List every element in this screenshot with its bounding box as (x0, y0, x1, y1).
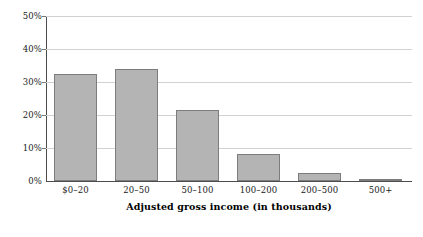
y-tick-mark (42, 49, 46, 50)
bar-3 (237, 154, 280, 181)
y-tick-mark (42, 148, 46, 149)
bar-1 (115, 69, 158, 181)
gridline-50 (46, 16, 412, 17)
x-axis-tick-label: 20–50 (115, 185, 158, 196)
y-axis-tick-label: 30% (2, 78, 42, 87)
bar-0 (54, 74, 97, 181)
y-tick-mark (42, 82, 46, 83)
gridline-10 (46, 148, 412, 149)
x-axis-tick-label: $0–20 (54, 185, 97, 196)
x-axis-tick-labels: $0–20 20–50 50–100 100–200 200–500 500+ (46, 185, 412, 199)
y-axis-tick-label: 50% (2, 12, 42, 21)
x-axis-tick-label: 200–500 (298, 185, 341, 196)
x-axis-tick-label: 100–200 (237, 185, 280, 196)
y-axis-tick-label: 40% (2, 45, 42, 54)
bar-2 (176, 110, 219, 181)
plot-area (46, 16, 412, 181)
gridline-30 (46, 82, 412, 83)
bar-4 (298, 173, 341, 181)
x-axis-tick-label: 500+ (359, 185, 402, 196)
axis-baseline-0 (46, 181, 412, 182)
y-tick-mark (42, 16, 46, 17)
bar-5 (359, 179, 402, 181)
bar-chart-figure: 50% 40% 30% 20% 10% 0% $0–20 20–50 50–10… (0, 0, 423, 237)
y-axis-tick-labels: 50% 40% 30% 20% 10% 0% (0, 16, 42, 181)
y-axis-tick-label: 10% (2, 144, 42, 153)
x-axis-tick-label: 50–100 (176, 185, 219, 196)
y-axis-tick-label: 0% (2, 177, 42, 186)
y-tick-mark (42, 115, 46, 116)
x-axis-title: Adjusted gross income (in thousands) (46, 201, 412, 212)
y-axis-tick-label: 20% (2, 111, 42, 120)
gridline-20 (46, 115, 412, 116)
gridline-40 (46, 49, 412, 50)
